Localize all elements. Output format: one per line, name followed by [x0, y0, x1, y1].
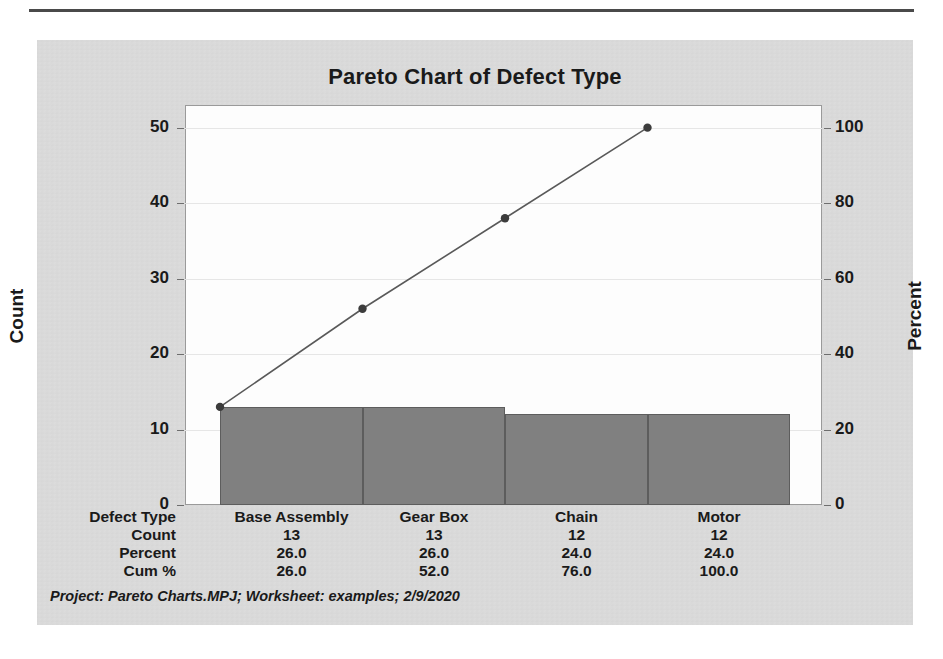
- y-axis-tick-mark: [177, 128, 184, 129]
- y-axis-title-percent: Percent: [904, 281, 926, 351]
- table-cell: 13: [363, 526, 506, 544]
- table-row: Count13131212: [37, 526, 913, 544]
- table-row: Percent26.026.024.024.0: [37, 544, 913, 562]
- table-cell: 76.0: [505, 562, 648, 580]
- table-cell: 26.0: [220, 562, 363, 580]
- y-axis-title-count: Count: [6, 289, 28, 344]
- bar[interactable]: [220, 407, 363, 505]
- table-cell: 100.0: [648, 562, 791, 580]
- y-axis-tick-label: 50: [117, 117, 169, 137]
- y2-axis-tick-label: 80: [835, 192, 895, 212]
- table-cell: Gear Box: [363, 508, 506, 526]
- table-row-label: Count: [37, 526, 176, 544]
- y2-axis-tick-mark: [824, 279, 831, 280]
- table-row-label: Defect Type: [37, 508, 176, 526]
- table-row-label: Cum %: [37, 562, 176, 580]
- gridline: [185, 354, 822, 355]
- gridline: [185, 279, 822, 280]
- y-axis-tick-label: 30: [117, 268, 169, 288]
- table-cell: Motor: [648, 508, 791, 526]
- gridline: [185, 128, 822, 129]
- gridline: [185, 203, 822, 204]
- y2-axis-tick-label: 40: [835, 343, 895, 363]
- y2-axis-tick-mark: [824, 354, 831, 355]
- table-cell: Chain: [505, 508, 648, 526]
- y2-axis-tick-mark: [824, 128, 831, 129]
- bar[interactable]: [505, 414, 648, 505]
- y-axis-tick-mark: [177, 203, 184, 204]
- y-axis-tick-label: 20: [117, 343, 169, 363]
- table-cell: 12: [505, 526, 648, 544]
- y2-axis-tick-mark: [824, 430, 831, 431]
- table-cell: 26.0: [220, 544, 363, 562]
- bar[interactable]: [363, 407, 506, 505]
- table-cell: 13: [220, 526, 363, 544]
- chart-title: Pareto Chart of Defect Type: [37, 64, 913, 90]
- table-cell: 24.0: [505, 544, 648, 562]
- table-row: Defect TypeBase AssemblyGear BoxChainMot…: [37, 508, 913, 526]
- bar[interactable]: [648, 414, 791, 505]
- y2-axis-tick-label: 100: [835, 117, 895, 137]
- y2-axis-tick-label: 60: [835, 268, 895, 288]
- y-axis-tick-mark: [177, 505, 184, 506]
- y2-axis-tick-mark: [824, 203, 831, 204]
- table-cell: 12: [648, 526, 791, 544]
- top-divider-rule: [29, 9, 914, 12]
- y-axis-tick-label: 40: [117, 192, 169, 212]
- pareto-data-table: Defect TypeBase AssemblyGear BoxChainMot…: [37, 508, 913, 580]
- footer-note: Project: Pareto Charts.MPJ; Worksheet: e…: [50, 588, 460, 604]
- table-row-label: Percent: [37, 544, 176, 562]
- table-row: Cum %26.052.076.0100.0: [37, 562, 913, 580]
- table-cell: 26.0: [363, 544, 506, 562]
- y-axis-tick-mark: [177, 354, 184, 355]
- y-axis-tick-label: 10: [117, 419, 169, 439]
- table-cell: 52.0: [363, 562, 506, 580]
- table-cell: Base Assembly: [220, 508, 363, 526]
- table-cell: 24.0: [648, 544, 791, 562]
- y2-axis-tick-label: 20: [835, 419, 895, 439]
- y2-axis-tick-mark: [824, 505, 831, 506]
- y-axis-tick-mark: [177, 430, 184, 431]
- y-axis-tick-mark: [177, 279, 184, 280]
